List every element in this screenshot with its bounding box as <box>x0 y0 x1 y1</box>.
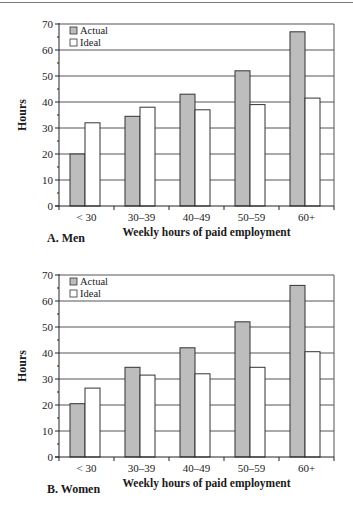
legend-label-ideal: Ideal <box>80 37 101 48</box>
x-tick-label: 30–39 <box>128 211 156 223</box>
bar-actual <box>70 154 85 206</box>
legend-swatch-actual <box>70 27 77 34</box>
x-tick-label: 60+ <box>298 462 315 474</box>
y-tick-label: 50 <box>42 321 54 333</box>
legend-label-actual: Actual <box>80 25 108 36</box>
x-tick-label: 30–39 <box>128 462 156 474</box>
chart-men: 010203040506070< 3030–3940–4950–5960+Wee… <box>0 0 353 240</box>
legend-label-ideal: Ideal <box>80 288 101 299</box>
y-tick-label: 20 <box>42 148 54 160</box>
y-tick-label: 0 <box>48 200 54 212</box>
x-tick-label: 50–59 <box>238 211 266 223</box>
x-tick-label: 50–59 <box>238 462 266 474</box>
y-tick-label: 20 <box>42 399 54 411</box>
bar-ideal <box>140 107 155 206</box>
x-tick-label: < 30 <box>77 211 97 223</box>
bar-actual <box>235 71 250 206</box>
panel-label-men: A. Men <box>47 231 85 246</box>
legend-swatch-ideal <box>70 290 77 297</box>
bar-ideal <box>305 98 320 206</box>
bar-actual <box>180 94 195 206</box>
x-tick-label: 40–49 <box>183 211 211 223</box>
legend-swatch-actual <box>70 278 77 285</box>
legend-label-actual: Actual <box>80 276 108 287</box>
y-tick-label: 60 <box>42 295 54 307</box>
y-tick-label: 30 <box>42 373 54 385</box>
bar-ideal <box>195 110 210 206</box>
bar-actual <box>180 348 195 457</box>
y-tick-label: 10 <box>42 174 54 186</box>
y-tick-label: 70 <box>42 18 54 30</box>
bar-actual <box>290 32 305 206</box>
panel-label-women: B. Women <box>47 482 100 497</box>
x-axis-label: Weekly hours of paid employment <box>122 226 290 239</box>
y-tick-label: 10 <box>42 425 54 437</box>
bar-actual <box>125 116 140 206</box>
bar-ideal <box>140 375 155 457</box>
y-tick-label: 50 <box>42 70 54 82</box>
y-tick-label: 70 <box>42 269 54 281</box>
bar-actual <box>290 285 305 457</box>
x-tick-label: < 30 <box>77 462 97 474</box>
bar-actual <box>70 404 85 457</box>
legend-swatch-ideal <box>70 39 77 46</box>
bar-ideal <box>305 352 320 457</box>
y-tick-label: 30 <box>42 122 54 134</box>
chart-women: 010203040506070< 3030–3940–4950–5960+Wee… <box>0 251 353 491</box>
bar-ideal <box>195 374 210 457</box>
bar-actual <box>125 367 140 457</box>
bar-ideal <box>250 105 265 206</box>
y-axis-label: Hours <box>15 99 29 131</box>
bar-ideal <box>250 367 265 457</box>
y-tick-label: 40 <box>42 96 54 108</box>
x-tick-label: 60+ <box>298 211 315 223</box>
x-tick-label: 40–49 <box>183 462 211 474</box>
y-tick-label: 60 <box>42 44 54 56</box>
x-axis-label: Weekly hours of paid employment <box>122 477 290 490</box>
y-tick-label: 0 <box>48 451 54 463</box>
bar-actual <box>235 322 250 457</box>
y-axis-label: Hours <box>15 350 29 382</box>
bar-ideal <box>85 388 100 457</box>
bar-ideal <box>85 123 100 206</box>
y-tick-label: 40 <box>42 347 54 359</box>
